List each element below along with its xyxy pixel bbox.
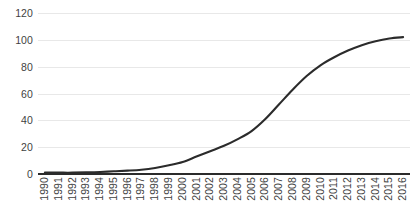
series-line	[38, 13, 410, 174]
y-axis-tick-label: 80	[0, 62, 33, 72]
x-axis-tick-label: 2006	[258, 176, 272, 219]
x-axis-tick-label: 1991	[52, 176, 66, 219]
y-axis-tick-label: 0	[0, 169, 33, 179]
x-axis-tick-label: 2010	[314, 176, 328, 219]
x-axis-tick-label: 1999	[162, 176, 176, 219]
x-axis-tick-labels: 1990199119921993199419951996199719981999…	[38, 176, 410, 219]
x-axis-tick-label: 2014	[369, 176, 383, 219]
x-axis-tick-label: 1990	[38, 176, 52, 219]
x-axis-tick-label: 2011	[327, 176, 341, 219]
x-axis-tick-label: 1998	[148, 176, 162, 219]
y-axis-tick-label: 20	[0, 142, 33, 152]
x-axis-tick-label: 2015	[382, 176, 396, 219]
x-axis-tick-label: 2009	[300, 176, 314, 219]
series-path	[45, 37, 403, 173]
x-axis-tick-label: 2001	[190, 176, 204, 219]
x-axis-tick-label: 1994	[93, 176, 107, 219]
line-chart: 020406080100120 199019911992199319941995…	[0, 0, 415, 219]
x-axis-tick-label: 2005	[245, 176, 259, 219]
y-axis-tick-label: 100	[0, 35, 33, 45]
x-axis-tick-label: 1995	[107, 176, 121, 219]
x-axis-tick-label: 2002	[203, 176, 217, 219]
x-axis-tick-label: 1992	[66, 176, 80, 219]
x-axis-tick-label: 2013	[355, 176, 369, 219]
x-axis-tick-label: 1997	[134, 176, 148, 219]
y-axis-tick-labels: 020406080100120	[0, 13, 33, 174]
x-axis-tick-label: 1993	[79, 176, 93, 219]
x-axis-tick-label: 2004	[231, 176, 245, 219]
x-axis-tick-label: 2000	[176, 176, 190, 219]
x-axis-tick-label: 2007	[272, 176, 286, 219]
y-axis-tick-label: 120	[0, 8, 33, 18]
plot-area	[38, 13, 410, 174]
x-axis-tick-label: 1996	[121, 176, 135, 219]
y-axis-tick-label: 40	[0, 115, 33, 125]
x-axis-tick-label: 2008	[286, 176, 300, 219]
x-axis-tick-label: 2003	[217, 176, 231, 219]
x-axis-line	[38, 173, 410, 175]
x-axis-tick-label: 2016	[396, 176, 410, 219]
x-axis-tick-label: 2012	[341, 176, 355, 219]
y-axis-tick-label: 60	[0, 89, 33, 99]
